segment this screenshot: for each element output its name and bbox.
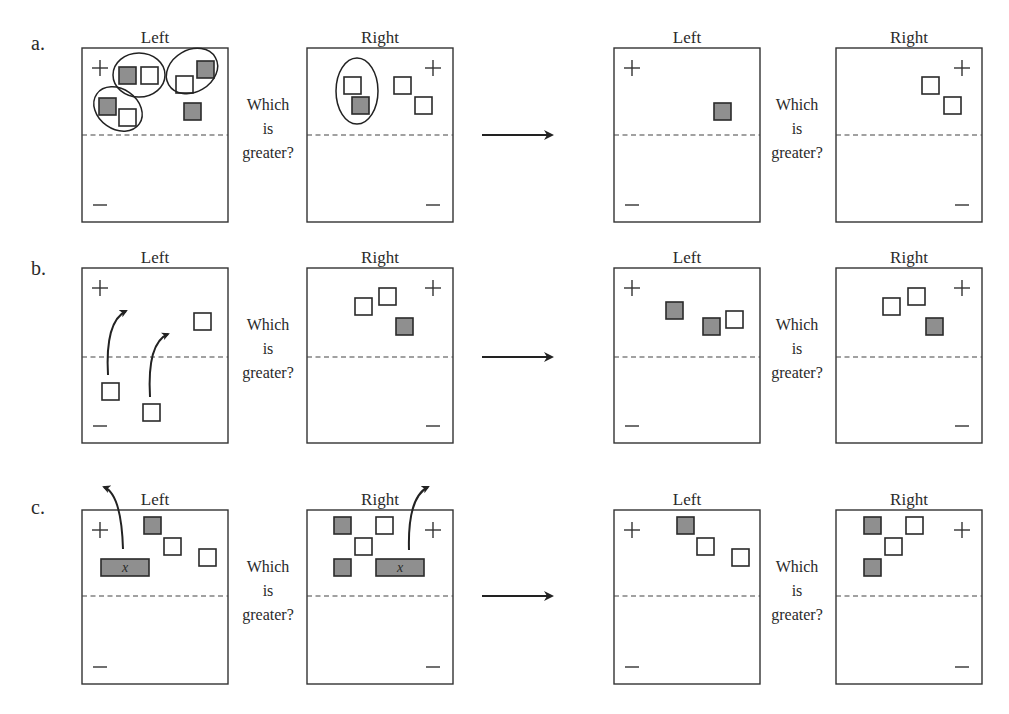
negative-unit-tile [396,318,413,335]
panel-border [614,268,760,443]
question-word: is [792,582,803,599]
panel-label-right: Right [361,28,399,47]
x-tile-label: x [121,560,129,575]
which-is-greater-question: Whichisgreater? [242,96,294,162]
negative-unit-tile [144,517,161,534]
panel-label-right: Right [361,248,399,267]
negative-unit-tile [677,517,694,534]
before-left-panel: Left [82,248,228,443]
positive-unit-tile [355,298,372,315]
before-right-panel: Right [307,28,453,222]
x-tile: x [101,559,149,576]
after-left-panel: Left [614,28,760,222]
after-left-panel: Left [614,248,760,443]
after-left-panel: Left [614,490,760,684]
before-right-panel: Rightx [307,487,453,684]
negative-unit-tile [666,302,683,319]
question-word: greater? [242,144,294,162]
question-word: is [263,120,274,137]
panel-label-right: Right [361,490,399,509]
panel-label-left: Left [673,28,702,47]
row-label: b. [31,257,46,279]
question-word: Which [776,558,819,575]
positive-unit-tile [908,288,925,305]
which-is-greater-question: Whichisgreater? [771,96,823,162]
question-word: Which [247,558,290,575]
negative-unit-tile [119,67,136,84]
row-label: c. [31,496,45,518]
question-word: greater? [771,144,823,162]
positive-unit-tile [906,517,923,534]
question-word: greater? [771,606,823,624]
panel-label-left: Left [141,490,170,509]
row-c: c.LeftxRightxLeftRightWhichisgreater?Whi… [31,487,982,684]
question-word: Which [247,316,290,333]
negative-unit-tile [184,103,201,120]
positive-unit-tile [376,517,393,534]
x-tile-label: x [396,560,404,575]
positive-unit-tile [726,311,743,328]
positive-unit-tile [143,404,160,421]
positive-unit-tile [119,109,136,126]
before-right-panel: Right [307,248,453,443]
positive-unit-tile [697,538,714,555]
after-right-panel: Right [836,490,982,684]
negative-unit-tile [714,103,731,120]
positive-unit-tile [344,77,361,94]
which-is-greater-question: Whichisgreater? [242,316,294,382]
positive-unit-tile [199,549,216,566]
panel-label-left: Left [141,28,170,47]
comparison-figure: a.LeftRightLeftRightWhichisgreater?Which… [0,0,1009,714]
row-b: b.LeftRightLeftRightWhichisgreater?Which… [31,248,982,443]
panel-label-right: Right [890,28,928,47]
positive-unit-tile [194,313,211,330]
after-right-panel: Right [836,248,982,443]
question-word: is [792,340,803,357]
before-left-panel: Left [82,28,228,222]
row-label: a. [31,32,45,54]
positive-unit-tile [885,538,902,555]
question-word: greater? [242,364,294,382]
positive-unit-tile [141,67,158,84]
before-left-panel: Leftx [82,487,228,684]
positive-unit-tile [379,288,396,305]
negative-unit-tile [352,97,369,114]
panel-label-left: Left [673,248,702,267]
positive-unit-tile [415,97,432,114]
positive-unit-tile [176,76,193,93]
positive-unit-tile [883,298,900,315]
negative-unit-tile [99,98,116,115]
panel-label-right: Right [890,248,928,267]
question-word: Which [247,96,290,113]
panel-border [836,510,982,684]
negative-unit-tile [703,318,720,335]
which-is-greater-question: Whichisgreater? [771,558,823,624]
panel-border [307,510,453,684]
panel-label-left: Left [673,490,702,509]
negative-unit-tile [197,61,214,78]
row-a: a.LeftRightLeftRightWhichisgreater?Which… [31,28,982,222]
x-tile: x [376,559,424,576]
question-word: is [792,120,803,137]
question-word: Which [776,96,819,113]
which-is-greater-question: Whichisgreater? [771,316,823,382]
negative-unit-tile [864,559,881,576]
question-word: greater? [242,606,294,624]
positive-unit-tile [944,97,961,114]
panel-label-left: Left [141,248,170,267]
which-is-greater-question: Whichisgreater? [242,558,294,624]
negative-unit-tile [926,318,943,335]
question-word: Which [776,316,819,333]
positive-unit-tile [394,77,411,94]
negative-unit-tile [334,559,351,576]
question-word: greater? [771,364,823,382]
positive-unit-tile [164,538,181,555]
positive-unit-tile [922,77,939,94]
positive-unit-tile [355,538,372,555]
positive-unit-tile [102,383,119,400]
question-word: is [263,582,274,599]
negative-unit-tile [334,517,351,534]
panel-border [614,510,760,684]
panel-label-right: Right [890,490,928,509]
positive-unit-tile [732,549,749,566]
